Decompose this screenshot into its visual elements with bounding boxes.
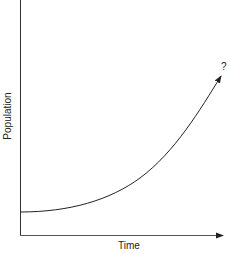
x-axis-label: Time xyxy=(118,240,140,251)
chart: ? Time Population xyxy=(0,0,229,254)
growth-curve xyxy=(20,76,221,212)
y-axis-label: Population xyxy=(2,92,13,139)
question-mark: ? xyxy=(221,61,227,72)
